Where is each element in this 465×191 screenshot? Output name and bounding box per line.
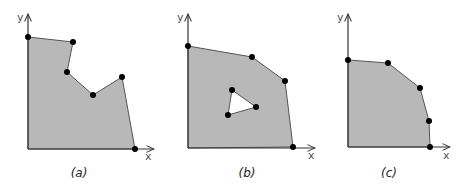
vertex-point	[132, 146, 138, 152]
vertex-point	[64, 69, 70, 75]
x-axis-label-a: x	[145, 150, 152, 163]
vertex-point	[25, 34, 31, 40]
vertex-point	[385, 60, 391, 66]
vertex-point	[282, 78, 288, 84]
vertex-point	[345, 57, 351, 63]
feasible-region-b	[188, 46, 293, 148]
vertex-point	[417, 85, 423, 91]
panel-a: y x (a)	[17, 11, 154, 180]
vertex-point	[70, 39, 76, 45]
y-axis-label-c: y	[337, 11, 344, 24]
x-axis-label-c: x	[443, 149, 450, 162]
vertex-point	[229, 87, 235, 93]
panel-b: y x (b)	[177, 11, 315, 180]
vertex-point	[185, 43, 191, 49]
vertex-point	[119, 74, 125, 80]
y-axis-label-b: y	[177, 11, 184, 24]
caption-b: (b)	[239, 166, 256, 180]
vertex-point	[249, 54, 255, 60]
vertex-point	[253, 104, 259, 110]
vertex-point	[90, 92, 96, 98]
diagram-canvas: y x (a) y x (b) y x (c)	[0, 0, 465, 191]
caption-c: (c)	[381, 166, 397, 180]
caption-a: (a)	[71, 166, 88, 180]
x-axis-label-b: x	[308, 149, 315, 162]
vertex-point	[225, 112, 231, 118]
vertex-point	[426, 118, 432, 124]
vertex-point	[427, 144, 433, 150]
feasible-region-c	[348, 60, 430, 147]
panel-c: y x (c)	[337, 11, 450, 180]
vertex-point	[290, 144, 296, 150]
feasible-region-a	[28, 37, 135, 149]
y-axis-label-a: y	[17, 11, 24, 24]
